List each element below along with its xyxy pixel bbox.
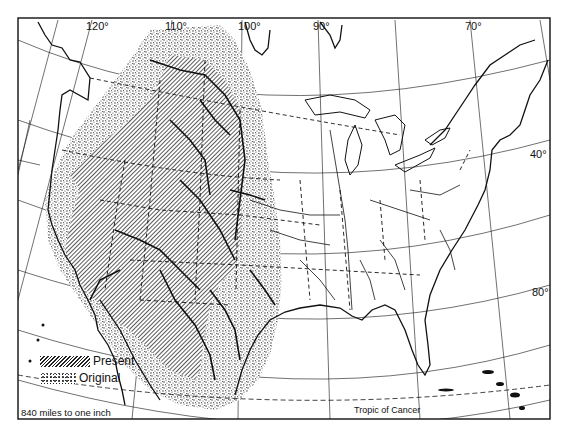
present-hatch-swatch <box>40 356 90 367</box>
tropic-of-cancer-label: Tropic of Cancer <box>354 405 420 415</box>
great-lakes <box>305 95 450 175</box>
original-stipple-swatch <box>40 373 76 384</box>
legend-label-present: Present <box>93 354 134 368</box>
range-map <box>0 0 567 434</box>
legend-item-original: Original <box>40 371 120 385</box>
latitude-label-80: 80° <box>532 286 549 298</box>
longitude-label-120: 120° <box>86 20 109 32</box>
map-scale-text: 840 miles to one inch <box>21 407 111 418</box>
longitude-label-110: 110° <box>165 20 187 32</box>
latitude-label-40: 40° <box>530 148 547 160</box>
longitude-label-70: 70° <box>465 20 482 32</box>
longitude-label-90: 90° <box>313 20 330 32</box>
legend-item-present: Present <box>40 354 134 368</box>
longitude-label-100: 100° <box>238 20 261 32</box>
legend-label-original: Original <box>79 371 120 385</box>
